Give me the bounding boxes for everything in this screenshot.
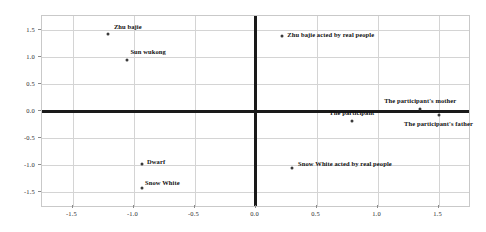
x-tick-label: 0.5 [311,210,320,217]
data-point-label: Dwarf [147,157,165,164]
data-point-label: The participant's mother [384,97,456,104]
data-point [106,33,109,36]
y-tick-label: 1.5 [0,25,35,32]
x-tick-label: -1.5 [66,210,77,217]
y-axis-zero-line [254,16,257,206]
y-tick-mark [38,164,41,165]
data-point-label: The participant's father [404,119,473,126]
x-tick-mark [438,205,439,208]
x-tick-mark [72,205,73,208]
y-tick-mark [38,29,41,30]
x-tick-label: 1.0 [372,210,381,217]
x-tick-mark [194,205,195,208]
data-point-label: Zhu bajie acted by real people [287,31,374,38]
data-point [141,187,144,190]
data-point-label: Snow White [145,179,180,186]
y-tick-mark [38,83,41,84]
data-point [281,35,284,38]
y-tick-label: -0.5 [0,134,35,141]
data-point [419,108,422,111]
data-point-label: The participant [329,108,374,115]
y-tick-label: 1.0 [0,52,35,59]
plot-area: Zhu bajieSun wukongZhu bajie acted by re… [41,15,470,207]
data-point-label: Sun wukong [130,47,166,54]
y-tick-mark [38,191,41,192]
y-tick-label: -1.0 [0,161,35,168]
x-tick-label: 1.5 [433,210,442,217]
x-tick-mark [133,205,134,208]
scatter-plot-figure: Zhu bajieSun wukongZhu bajie acted by re… [0,0,486,232]
y-tick-label: -1.5 [0,188,35,195]
y-tick-label: 0.0 [0,107,35,114]
data-point [291,167,294,170]
y-tick-mark [38,137,41,138]
x-tick-label: -0.5 [188,210,199,217]
data-point [350,119,353,122]
y-tick-mark [38,110,41,111]
x-tick-label: 0.0 [250,210,259,217]
data-point [141,162,144,165]
data-point-label: Snow White acted by real people [298,160,392,167]
data-point [437,113,440,116]
y-tick-label: 0.5 [0,79,35,86]
data-point-label: Zhu bajie [114,23,142,30]
x-tick-mark [316,205,317,208]
y-tick-mark [38,56,41,57]
x-tick-mark [255,205,256,208]
x-tick-label: -1.0 [127,210,138,217]
data-point [126,58,129,61]
x-tick-mark [377,205,378,208]
